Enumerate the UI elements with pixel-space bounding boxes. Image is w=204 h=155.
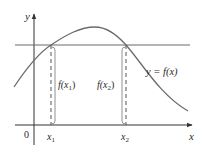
bracket-f-x1 [52,47,56,124]
x1-tick-label: x1 [46,131,55,144]
bracket-f-x2 [122,47,126,124]
function-graph: y x 0 y = f(x) x1 x2 f(x1) f(x2) [0,0,204,155]
x-axis-label: x [188,130,194,142]
origin-label: 0 [24,129,29,140]
curve-label: y = f(x) [145,66,178,78]
x2-tick-label: x2 [120,131,129,144]
y-axis-label: y [24,10,30,22]
f-x2-label: f(x2) [97,79,114,92]
f-x1-label: f(x1) [58,79,75,92]
